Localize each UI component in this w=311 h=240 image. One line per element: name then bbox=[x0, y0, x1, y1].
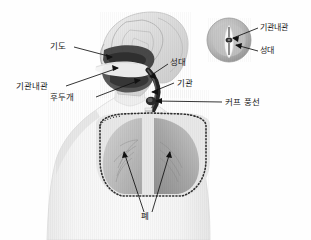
figure-canvas: 기도 기관내관 후두개 성대 기관 커프 풍선 폐 기관내관 성대 bbox=[0, 0, 311, 240]
label-endotracheal-tube: 기관내관 bbox=[16, 81, 48, 91]
label-vocal-cords: 성대 bbox=[170, 57, 186, 67]
inset-label-endotracheal-tube: 기관내관 bbox=[260, 23, 288, 33]
label-airway: 기도 bbox=[50, 41, 66, 51]
inset-label-vocal-cords: 성대 bbox=[260, 46, 274, 56]
label-cuff-balloon: 커프 풍선 bbox=[225, 97, 260, 107]
thorax bbox=[90, 108, 216, 202]
label-epiglottis: 후두개 bbox=[50, 92, 74, 102]
anatomy-illustration bbox=[0, 0, 311, 240]
glottis-inset bbox=[207, 18, 251, 62]
label-lungs: 폐 bbox=[141, 211, 149, 221]
label-trachea: 기관 bbox=[177, 78, 193, 88]
